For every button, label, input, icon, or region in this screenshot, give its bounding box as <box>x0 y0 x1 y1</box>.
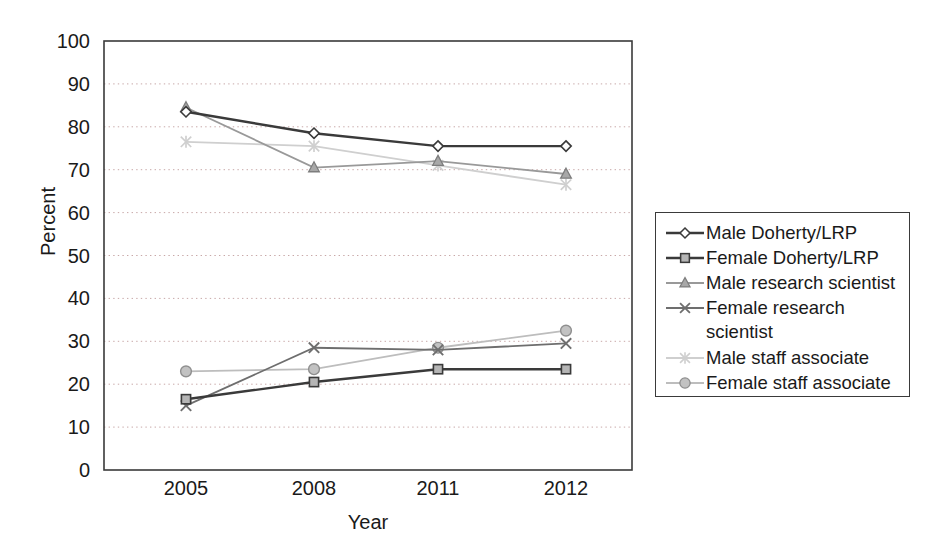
marker-diamond <box>433 141 443 151</box>
marker-circle <box>181 366 192 377</box>
series-line <box>186 112 566 146</box>
chart-page: Percent 0102030405060708090100 200520082… <box>0 0 950 555</box>
marker-square <box>433 365 442 374</box>
x-axis-title: Year <box>104 511 632 534</box>
marker-square <box>561 365 570 374</box>
marker-diamond <box>680 228 690 238</box>
legend-label: Male research scientist <box>706 273 895 292</box>
legend-key-circle-icon <box>664 372 706 394</box>
legend-label: Male staff associate <box>706 348 869 367</box>
marker-circle <box>561 325 572 336</box>
series-layer <box>181 102 572 411</box>
x-tick-2008: 2008 <box>269 478 359 498</box>
series-male-doherty-lrp <box>181 107 571 152</box>
series-line <box>186 331 566 372</box>
marker-circle <box>309 364 320 375</box>
marker-square <box>181 395 190 404</box>
legend-key-asterisk-icon <box>664 347 706 369</box>
legend-item-female-doherty-lrp[interactable]: Female Doherty/LRP <box>664 245 903 270</box>
legend-item-male-research-scientist[interactable]: Male research scientist <box>664 270 903 295</box>
legend-label: Female staff associate <box>706 373 891 392</box>
marker-circle <box>433 342 444 353</box>
marker-diamond <box>309 128 319 138</box>
x-tick-2011: 2011 <box>393 478 483 498</box>
legend-item-female-staff-associate[interactable]: Female staff associate <box>664 370 903 395</box>
legend-key-diamond-icon <box>664 222 706 244</box>
marker-circle <box>680 377 690 387</box>
marker-diamond <box>561 141 571 151</box>
legend-item-female-research[interactable]: Female research <box>664 295 903 320</box>
legend-key-cross-icon <box>664 297 706 319</box>
x-tick-2005: 2005 <box>141 478 231 498</box>
x-tick-2012: 2012 <box>521 478 611 498</box>
legend-key-triangle-icon <box>664 272 706 294</box>
marker-square <box>681 253 690 262</box>
legend-label: Female research <box>706 298 845 317</box>
legend-item-male-staff-associate[interactable]: Male staff associate <box>664 345 903 370</box>
series-line <box>186 142 566 185</box>
legend-label: Female Doherty/LRP <box>706 248 879 267</box>
legend-item-male-doherty-lrp[interactable]: Male Doherty/LRP <box>664 220 903 245</box>
chart-legend: Male Doherty/LRPFemale Doherty/LRPMale r… <box>655 212 910 397</box>
marker-square <box>309 377 318 386</box>
series-male-staff-associate <box>181 136 571 191</box>
marker-triangle <box>433 155 444 165</box>
legend-label: Male Doherty/LRP <box>706 223 857 242</box>
legend-key-square-icon <box>664 247 706 269</box>
legend-label-continued: scientist <box>664 320 903 345</box>
